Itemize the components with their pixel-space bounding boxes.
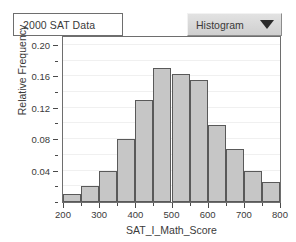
x-tick-label: 600 bbox=[200, 209, 216, 220]
x-tick-mark bbox=[280, 203, 281, 208]
x-tick-mark-minor bbox=[117, 203, 118, 206]
histogram-bar bbox=[63, 194, 81, 202]
y-tick-mark bbox=[53, 108, 58, 109]
y-tick-mark-minor bbox=[55, 61, 58, 62]
x-tick-mark bbox=[208, 203, 209, 208]
x-tick-mark-minor bbox=[262, 203, 263, 206]
y-tick-mark-minor bbox=[55, 202, 58, 203]
plot-area bbox=[62, 36, 281, 203]
histogram-bar bbox=[81, 186, 99, 202]
y-axis: 0.040.080.120.160.20 bbox=[0, 36, 58, 204]
x-axis-labels: 200300400500600700800 bbox=[62, 209, 281, 223]
histogram-bar bbox=[99, 171, 117, 202]
x-tick-label: 700 bbox=[236, 209, 252, 220]
y-tick-mark bbox=[53, 171, 58, 172]
x-tick-mark-minor bbox=[153, 203, 154, 206]
x-tick-label: 800 bbox=[272, 209, 288, 220]
y-tick-mark-minor bbox=[55, 123, 58, 124]
x-tick-label: 300 bbox=[91, 209, 107, 220]
x-tick-mark-minor bbox=[226, 203, 227, 206]
x-axis-title: SAT_I_Math_Score bbox=[62, 224, 281, 236]
y-tick-mark-minor bbox=[55, 92, 58, 93]
x-tick-mark bbox=[135, 203, 136, 208]
x-tick-label: 200 bbox=[55, 209, 71, 220]
x-tick-label: 500 bbox=[164, 209, 180, 220]
y-tick-label: 0.12 bbox=[32, 102, 51, 113]
chart-type-value: Histogram bbox=[196, 19, 244, 31]
histogram-bar bbox=[244, 171, 262, 202]
histogram-bar bbox=[208, 125, 226, 202]
y-tick-label: 0.16 bbox=[32, 71, 51, 82]
histogram-bar bbox=[172, 74, 190, 202]
histogram-bar bbox=[226, 149, 244, 202]
y-axis-title: Relative Frequency bbox=[16, 5, 28, 135]
histogram-app: 2000 SAT Data Histogram 0.040.080.120.16… bbox=[0, 0, 296, 242]
y-tick-mark-minor bbox=[55, 155, 58, 156]
x-tick-mark-minor bbox=[81, 203, 82, 206]
chart-type-dropdown[interactable]: Histogram bbox=[187, 13, 282, 36]
chevron-down-icon bbox=[260, 20, 274, 29]
x-tick-mark bbox=[244, 203, 245, 208]
y-tick-label: 0.04 bbox=[32, 165, 51, 176]
y-tick-mark bbox=[53, 76, 58, 77]
y-tick-mark-minor bbox=[55, 186, 58, 187]
x-tick-mark bbox=[63, 203, 64, 208]
y-tick-label: 0.08 bbox=[32, 134, 51, 145]
histogram-bar bbox=[190, 80, 208, 202]
histogram-bar bbox=[153, 68, 171, 202]
histogram-bar bbox=[262, 182, 280, 202]
y-tick-label: 0.20 bbox=[32, 39, 51, 50]
histogram-bar bbox=[135, 100, 153, 202]
x-tick-mark-minor bbox=[190, 203, 191, 206]
histogram-bars bbox=[63, 37, 280, 202]
x-tick-label: 400 bbox=[127, 209, 143, 220]
page-title: 2000 SAT Data bbox=[23, 19, 95, 31]
chart-title-box: 2000 SAT Data bbox=[13, 13, 123, 36]
x-tick-mark bbox=[172, 203, 173, 208]
histogram-bar bbox=[117, 139, 135, 202]
y-tick-mark bbox=[53, 45, 58, 46]
y-tick-mark bbox=[53, 139, 58, 140]
x-tick-mark bbox=[99, 203, 100, 208]
